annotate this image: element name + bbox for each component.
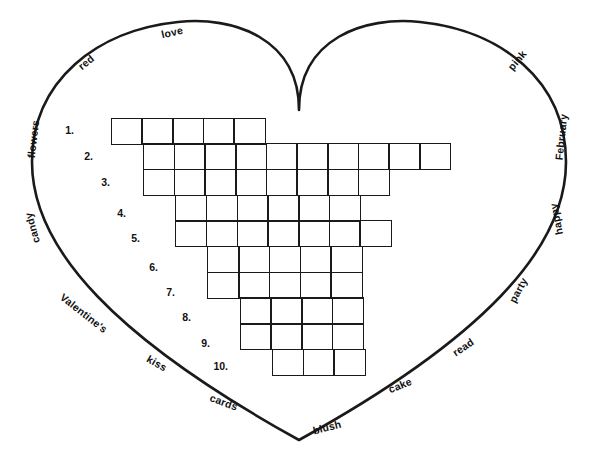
grid-row [175,220,390,247]
grid-cell[interactable] [233,118,265,145]
crossword-grid: 1.2.3.4.5.6.7.8.9.10. [0,0,598,457]
grid-cell[interactable] [141,118,173,145]
grid-cell[interactable] [235,143,267,170]
grid-cell[interactable] [388,143,420,170]
row-number: 3. [88,176,110,188]
grid-cell[interactable] [204,143,236,170]
grid-cell[interactable] [298,195,330,222]
grid-cell[interactable] [235,169,267,196]
row-number: 1. [52,124,74,136]
grid-cell[interactable] [298,220,330,247]
row-number: 4. [104,207,126,219]
grid-cell[interactable] [300,246,332,273]
puzzle-worksheet: loveredflowerscandyValentine'skisscardsb… [0,0,598,457]
grid-cell[interactable] [300,272,332,299]
grid-cell[interactable] [419,143,451,170]
row-number: 5. [118,232,140,244]
row-number: 2. [71,150,93,162]
grid-cell[interactable] [358,143,390,170]
grid-row [111,118,265,145]
grid-row [240,323,363,350]
grid-cell[interactable] [358,169,390,196]
grid-cell[interactable] [332,323,364,350]
grid-cell[interactable] [272,349,304,376]
row-number: 7. [153,286,175,298]
grid-cell[interactable] [143,169,175,196]
grid-cell[interactable] [330,272,362,299]
grid-cell[interactable] [327,143,359,170]
row-number: 8. [169,311,191,323]
grid-cell[interactable] [327,169,359,196]
grid-cell[interactable] [333,349,365,376]
grid-cell[interactable] [143,143,175,170]
grid-cell[interactable] [174,143,206,170]
grid-cell[interactable] [240,323,272,350]
grid-cell[interactable] [240,297,272,324]
grid-cell[interactable] [237,195,269,222]
grid-cell[interactable] [269,246,301,273]
grid-cell[interactable] [296,169,328,196]
grid-row [272,349,364,376]
grid-cell[interactable] [301,323,333,350]
grid-cell[interactable] [269,272,301,299]
grid-row [175,195,359,222]
grid-cell[interactable] [203,118,235,145]
grid-cell[interactable] [204,169,236,196]
grid-row [143,169,389,196]
grid-row [143,143,450,170]
grid-row [240,297,363,324]
row-number: 9. [188,337,210,349]
grid-cell[interactable] [329,220,361,247]
grid-cell[interactable] [206,220,238,247]
grid-cell[interactable] [172,118,204,145]
grid-cell[interactable] [207,246,239,273]
row-number: 10. [206,360,228,372]
grid-cell[interactable] [266,169,298,196]
grid-cell[interactable] [330,246,362,273]
grid-cell[interactable] [238,272,270,299]
grid-cell[interactable] [303,349,335,376]
grid-cell[interactable] [267,220,299,247]
grid-cell[interactable] [270,323,302,350]
grid-cell[interactable] [175,195,207,222]
grid-cell[interactable] [267,195,299,222]
grid-cell[interactable] [301,297,333,324]
grid-cell[interactable] [270,297,302,324]
row-number: 6. [136,261,158,273]
grid-cell[interactable] [332,297,364,324]
grid-cell[interactable] [359,220,391,247]
grid-cell[interactable] [206,195,238,222]
grid-cell[interactable] [111,118,143,145]
grid-cell[interactable] [266,143,298,170]
grid-cell[interactable] [175,220,207,247]
grid-row [207,246,361,273]
grid-cell[interactable] [238,246,270,273]
grid-row [207,272,361,299]
grid-cell[interactable] [207,272,239,299]
grid-cell[interactable] [237,220,269,247]
grid-cell[interactable] [174,169,206,196]
grid-cell[interactable] [296,143,328,170]
grid-cell[interactable] [329,195,361,222]
